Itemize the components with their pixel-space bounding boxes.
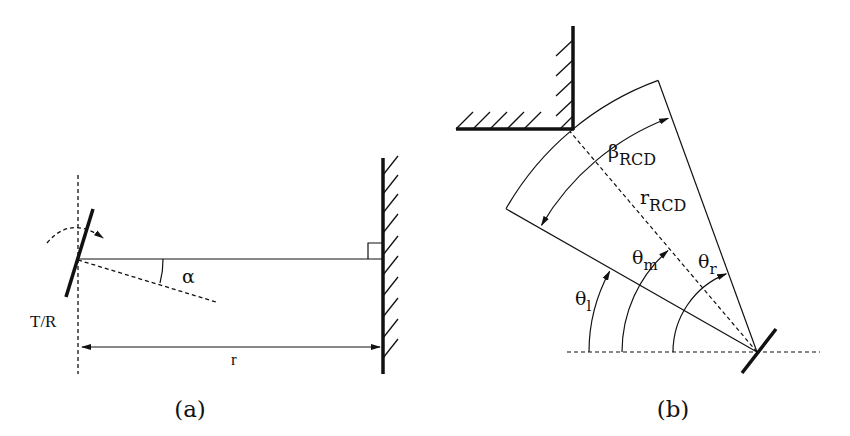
- r-rcd-label: rRCD: [640, 186, 686, 215]
- panel-b: βRCD rRCD θl θm θr (b): [456, 26, 820, 422]
- sector-left-edge: [506, 209, 757, 352]
- sector-outer-arc: [506, 80, 658, 208]
- deflected-beam-line: [78, 260, 216, 302]
- theta-l-subscript: l: [586, 297, 591, 315]
- beta-rcd-label: βRCD: [608, 140, 656, 169]
- alpha-label: α: [182, 265, 195, 287]
- rotation-arrow: [47, 228, 103, 243]
- wall-hatching: [383, 156, 398, 358]
- figure-canvas: α T/R r (a): [0, 0, 850, 436]
- radius-subscript: RCD: [649, 196, 686, 215]
- distance-label: r: [231, 350, 237, 369]
- center-dashed-line: [570, 132, 757, 352]
- beta-subscript: RCD: [619, 150, 656, 169]
- theta-l-symbol: θ: [575, 287, 586, 309]
- theta-m-subscript: m: [643, 256, 657, 274]
- transceiver-label: T/R: [30, 312, 57, 331]
- panel-b-caption: (b): [657, 396, 690, 422]
- theta-m-label: θm: [632, 246, 658, 274]
- theta-m-symbol: θ: [632, 246, 643, 268]
- theta-r-subscript: r: [709, 260, 717, 278]
- panel-a-caption: (a): [174, 396, 206, 422]
- sector-right-edge: [658, 80, 757, 352]
- theta-l-label: θl: [575, 287, 591, 315]
- transceiver-mirror: [66, 209, 93, 297]
- corner-wall-hatching: [456, 40, 573, 129]
- theta-l-arc: [589, 271, 610, 352]
- theta-r-symbol: θ: [698, 250, 709, 272]
- theta-r-arc: [673, 274, 726, 352]
- transceiver-mirror-b: [742, 329, 776, 373]
- beta-symbol: β: [608, 140, 619, 162]
- theta-r-label: θr: [698, 250, 717, 278]
- panel-a: α T/R r (a): [30, 156, 398, 422]
- alpha-angle-arc: [160, 259, 163, 283]
- right-angle-marker: [368, 243, 383, 259]
